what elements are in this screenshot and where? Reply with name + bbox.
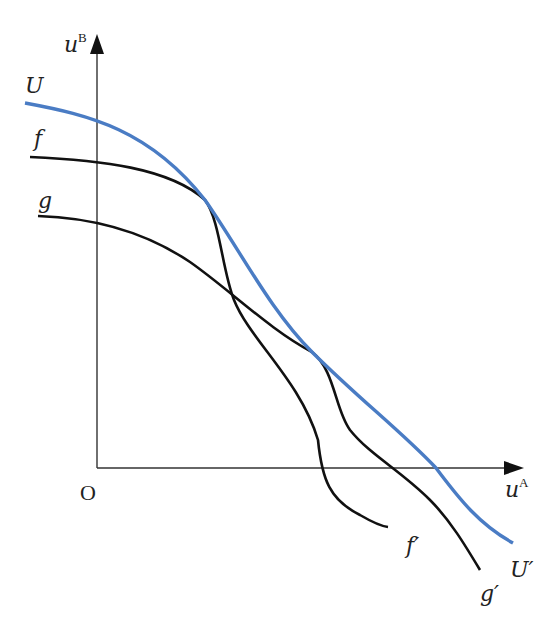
- origin-label: O: [80, 480, 96, 505]
- x-axis-arrow-icon: [504, 461, 524, 475]
- utility-possibility-diagram: u B u A O U U′ f f′ g g′: [0, 0, 558, 626]
- y-axis-label-sup: B: [78, 30, 87, 45]
- label-g-prime: g′: [480, 581, 499, 606]
- label-f-prime: f′: [404, 533, 419, 558]
- curve-g: [38, 216, 480, 570]
- y-axis-label: u: [64, 32, 78, 57]
- curve-f: [30, 157, 388, 527]
- label-f: f: [32, 126, 46, 151]
- label-g: g: [38, 188, 52, 213]
- y-axis-arrow-icon: [90, 34, 104, 54]
- x-axis-label-sup: A: [519, 475, 529, 490]
- label-U: U: [25, 73, 45, 98]
- x-axis-label: u: [505, 477, 519, 502]
- label-U-prime: U′: [510, 557, 534, 582]
